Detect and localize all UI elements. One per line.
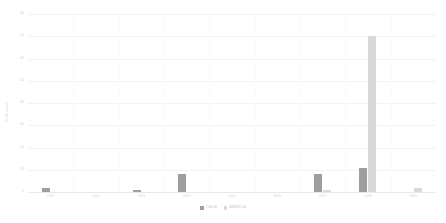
bar-group: 2017 xyxy=(300,14,345,192)
bar-group: 2013 xyxy=(119,14,164,192)
legend-swatch-icon xyxy=(224,206,228,210)
y-axis-tick-label: 60 xyxy=(20,57,24,60)
bar-group: 2018 xyxy=(345,14,390,192)
x-axis-tick-label: 2019 xyxy=(409,195,417,198)
y-axis-tick-label: 20 xyxy=(20,146,24,149)
x-axis-tick-label: 2017 xyxy=(319,195,327,198)
bar xyxy=(414,188,422,192)
bar-chart: Nº de casos 01020304050607080 2011201220… xyxy=(0,0,446,223)
legend-item[interactable]: AMÉRICA xyxy=(224,206,246,210)
chart-legend: ITÁLIAAMÉRICA xyxy=(0,206,446,210)
bar-group: 2015 xyxy=(209,14,254,192)
legend-label: AMÉRICA xyxy=(229,206,245,209)
y-axis-tick-label: 0 xyxy=(22,190,24,193)
y-axis-tick-label: 70 xyxy=(20,35,24,38)
legend-label: ITÁLIA xyxy=(206,206,217,209)
bar-group: 2014 xyxy=(164,14,209,192)
legend-item[interactable]: ITÁLIA xyxy=(200,206,216,210)
bar xyxy=(42,188,50,192)
y-axis-tick-label: 80 xyxy=(20,12,24,15)
x-axis-tick-label: 2015 xyxy=(228,195,236,198)
bar-group: 2012 xyxy=(73,14,118,192)
x-axis-tick-label: 2014 xyxy=(183,195,191,198)
legend-swatch-icon xyxy=(200,206,204,210)
y-axis-tick-label: 50 xyxy=(20,79,24,82)
bar xyxy=(359,168,367,192)
x-axis-tick-label: 2012 xyxy=(92,195,100,198)
x-axis-tick-label: 2016 xyxy=(273,195,281,198)
y-axis-tick-label: 30 xyxy=(20,124,24,127)
y-axis-tick-label: 40 xyxy=(20,101,24,104)
x-axis-tick-label: 2018 xyxy=(364,195,372,198)
x-axis-tick-label: 2013 xyxy=(137,195,145,198)
x-axis-tick-label: 2011 xyxy=(47,195,55,198)
bar-group: 2011 xyxy=(28,14,73,192)
bar xyxy=(323,190,331,192)
bar-group: 2016 xyxy=(255,14,300,192)
y-axis-title: Nº de casos xyxy=(6,102,9,121)
plot-area: 01020304050607080 2011201220132014201520… xyxy=(28,14,436,192)
bar xyxy=(368,36,376,192)
bar xyxy=(178,174,186,192)
y-axis-tick-label: 10 xyxy=(20,168,24,171)
bar-group: 2019 xyxy=(391,14,436,192)
bar xyxy=(133,190,141,192)
bar xyxy=(314,174,322,192)
